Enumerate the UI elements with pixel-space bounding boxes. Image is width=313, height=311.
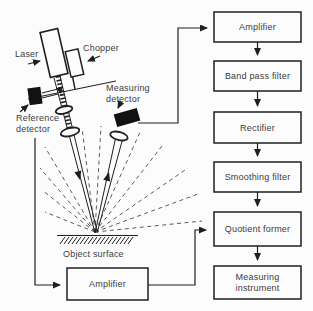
reference-detector-pointer-arrow xyxy=(20,105,28,112)
laser-beam-hatched xyxy=(58,76,70,132)
laser-measurement-diagram: Amplifier Band pass filter Rectifier Smo… xyxy=(0,0,313,311)
measuring-instrument-label-line2: instrument xyxy=(235,283,279,293)
reference-detector-to-amplifier xyxy=(35,138,60,285)
measuring-instrument-label-line1: Measuring xyxy=(236,272,280,282)
chopper-pointer-arrow xyxy=(88,56,100,61)
smoothing-filter-label: Smoothing filter xyxy=(225,172,291,182)
chopper-label: Chopper xyxy=(83,43,119,53)
quotient-former-label: Quotient former xyxy=(225,224,291,234)
lens-3-measuring xyxy=(109,130,128,142)
object-surface-label: Object surface xyxy=(63,249,124,259)
measuring-detector-to-amplifier xyxy=(138,28,207,123)
laser-label: Laser xyxy=(15,49,39,59)
laser-pointer-arrow xyxy=(28,61,40,64)
reference-detector-label-line2: detector xyxy=(16,124,50,134)
amplifier-bottom-label: Amplifier xyxy=(89,279,126,289)
surface-hatching xyxy=(60,237,133,244)
band-pass-filter-label: Band pass filter xyxy=(225,71,290,81)
chopper-stem xyxy=(73,77,76,90)
diagram-canvas: Amplifier Band pass filter Rectifier Smo… xyxy=(0,0,313,311)
rectifier-label: Rectifier xyxy=(240,123,275,133)
measuring-detector-label-line1: Measuring xyxy=(106,83,150,93)
amplifier-to-quotient-former xyxy=(148,230,206,285)
amplifier-top-label: Amplifier xyxy=(239,22,276,32)
reference-detector-label-line1: Reference xyxy=(16,113,59,123)
object-surface xyxy=(57,236,138,245)
measuring-detector-label-line2: detector xyxy=(106,94,140,104)
reference-detector-shape xyxy=(27,87,42,106)
measuring-detector-shape xyxy=(114,108,141,127)
scattered-rays xyxy=(40,126,202,232)
lens-2 xyxy=(60,126,80,138)
laser-body xyxy=(40,29,68,78)
